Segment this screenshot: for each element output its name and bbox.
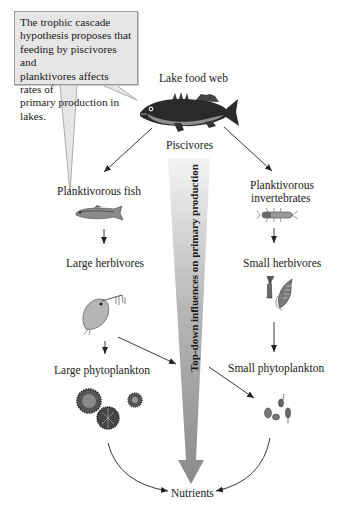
label-piscivores: Piscivores bbox=[166, 139, 213, 152]
diagram-title: Lake food web bbox=[159, 72, 228, 85]
callout-line: feeding by piscivores and bbox=[20, 43, 132, 70]
callout-line: planktivores affects rates of bbox=[20, 70, 132, 97]
daphnia-icon bbox=[83, 295, 125, 335]
callout-line: primary production in lakes. bbox=[20, 96, 132, 123]
label-planktivorous-invertebrates-1: Planktivorous bbox=[250, 179, 314, 192]
top-down-influence-label: Top-down influences on primary productio… bbox=[188, 164, 200, 372]
small-planktivorous-fish-icon bbox=[76, 205, 123, 220]
arrow-piscivores-to-planktivorous-fish bbox=[104, 128, 152, 172]
label-planktivorous-fish: Planktivorous fish bbox=[57, 185, 141, 198]
label-large-phytoplankton: Large phytoplankton bbox=[54, 364, 150, 377]
label-small-phytoplankton: Small phytoplankton bbox=[228, 362, 324, 375]
label-large-herbivores: Large herbivores bbox=[66, 257, 144, 270]
label-small-herbivores: Small herbivores bbox=[243, 257, 321, 270]
large-phytoplankton-colony-icon bbox=[77, 389, 142, 429]
copepod-icon bbox=[267, 276, 292, 310]
callout-line: hypothesis proposes that bbox=[20, 29, 132, 42]
insect-larva-icon bbox=[257, 208, 298, 222]
arrow-large-phytoplankton-to-nutrients bbox=[108, 443, 168, 491]
hypothesis-callout: The trophic cascade hypothesis proposes … bbox=[14, 11, 138, 85]
largemouth-bass-icon bbox=[140, 92, 239, 132]
arrow-small-phytoplankton-to-nutrients bbox=[216, 438, 270, 491]
trophic-cascade-diagram: The trophic cascade hypothesis proposes … bbox=[0, 0, 341, 511]
label-nutrients: Nutrients bbox=[171, 487, 214, 500]
callout-line: The trophic cascade bbox=[20, 16, 132, 29]
arrow-piscivores-to-planktivorous-invertebrates bbox=[224, 127, 272, 171]
small-phytoplankton-cells-icon bbox=[265, 394, 291, 424]
arrow-large-herbivores-to-small-phytoplankton-a bbox=[118, 337, 176, 364]
label-planktivorous-invertebrates-2: invertebrates bbox=[251, 192, 310, 205]
